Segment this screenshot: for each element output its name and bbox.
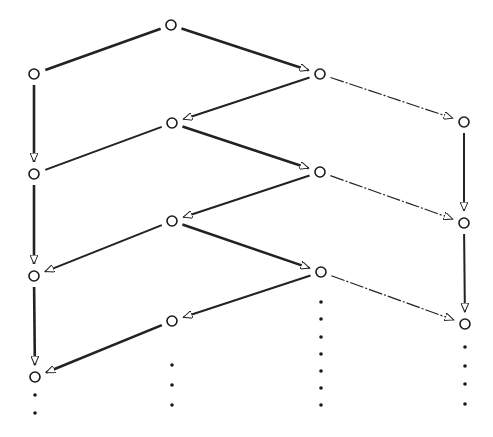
ellipsis-dot (319, 300, 323, 304)
node-b1 (167, 118, 177, 128)
ellipsis-dot (33, 411, 37, 415)
edge-b2-c3 (182, 225, 309, 269)
ellipsis-dot (319, 352, 323, 356)
node-b3 (167, 316, 177, 326)
node-d3 (460, 319, 470, 329)
ellipsis-layer (33, 300, 467, 415)
lattice-diagram (0, 0, 493, 437)
edge-a3-a4 (34, 287, 35, 365)
ellipsis-dot (319, 386, 323, 390)
node-c2 (315, 167, 325, 177)
edge-c1-b1 (183, 77, 309, 119)
edge-n0-c1 (181, 28, 308, 70)
edge-c2-d2 (330, 176, 452, 219)
node-a1 (29, 69, 39, 79)
node-b2 (167, 216, 177, 226)
edge-b1-c2 (182, 126, 308, 168)
edge-b1-a2 (45, 127, 161, 170)
edge-b3-a4 (46, 325, 162, 372)
ellipsis-dot (463, 382, 467, 386)
ellipsis-dot (463, 345, 467, 349)
ellipsis-dot (319, 335, 323, 339)
ellipsis-dot (170, 403, 174, 407)
edge-c3-d3 (331, 276, 453, 320)
ellipsis-dot (170, 383, 174, 387)
node-c1 (315, 69, 325, 79)
edge-n0-a1 (45, 29, 160, 70)
node-a3 (29, 271, 39, 281)
ellipsis-dot (319, 369, 323, 373)
ellipsis-dot (319, 403, 323, 407)
node-n0 (166, 20, 176, 30)
edge-b2-a3 (45, 225, 162, 271)
node-d2 (459, 218, 469, 228)
node-a2 (29, 169, 39, 179)
edge-d2-d3 (464, 234, 465, 312)
ellipsis-dot (463, 364, 467, 368)
node-d1 (459, 117, 469, 127)
node-c3 (316, 267, 326, 277)
edge-c1-d1 (330, 77, 452, 118)
nodes-layer (29, 20, 470, 382)
node-a4 (30, 372, 40, 382)
ellipsis-dot (319, 317, 323, 321)
edge-c2-b2 (183, 175, 309, 217)
edge-c3-b3 (183, 275, 310, 317)
ellipsis-dot (33, 393, 37, 397)
ellipsis-dot (170, 363, 174, 367)
edges-layer (34, 28, 465, 372)
ellipsis-dot (463, 402, 467, 406)
